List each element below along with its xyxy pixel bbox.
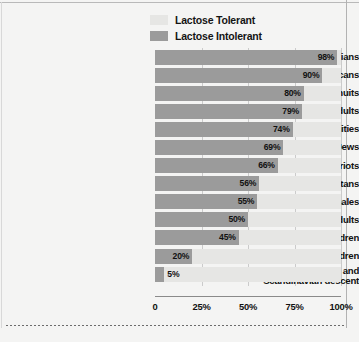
- chart-legend: Lactose Tolerant Lactose Intolerant: [150, 13, 262, 45]
- bar-fill-intolerant: 80%: [155, 86, 304, 101]
- bar-track-tolerant: 55%: [155, 194, 341, 209]
- chart-bar-row: Indian children20%: [0, 247, 359, 265]
- bar-value-label: 56%: [240, 176, 257, 191]
- bar-value-label: 20%: [173, 249, 190, 264]
- bar-fill-intolerant: 69%: [155, 140, 283, 155]
- bar-track-tolerant: 45%: [155, 230, 341, 245]
- chart-bar-row: Caucasians of north-European and Scandin…: [0, 265, 359, 283]
- bar-fill-intolerant: 79%: [155, 104, 302, 119]
- chart-bar-row: Cretans56%: [0, 175, 359, 193]
- chart-figure: Lactose Tolerant Lactose Intolerant Sout…: [0, 0, 359, 342]
- bar-track-tolerant: 74%: [155, 122, 341, 137]
- bar-track-tolerant: 69%: [155, 140, 341, 155]
- bar-value-label: 90%: [303, 68, 320, 83]
- x-axis-tick-label: 0: [152, 301, 157, 312]
- bar-fill-intolerant: 74%: [155, 122, 293, 137]
- chart-bar-row: African American children45%: [0, 229, 359, 247]
- figure-border-top: [0, 2, 359, 3]
- chart-bar-row: Asian Americans90%: [0, 66, 359, 84]
- bar-track-tolerant: 20%: [155, 249, 341, 264]
- bar-value-label: 98%: [318, 50, 335, 65]
- chart-bar-rows: Southeast Asians98%Asian Americans90%Ala…: [0, 48, 359, 283]
- bar-track-tolerant: 90%: [155, 68, 341, 83]
- bar-fill-intolerant: 20%: [155, 249, 192, 264]
- chart-bar-row: Southeast Asians98%: [0, 48, 359, 66]
- bar-track-tolerant: 98%: [155, 50, 341, 65]
- legend-swatch-intolerant: [150, 31, 168, 41]
- bar-fill-intolerant: 50%: [155, 212, 248, 227]
- bar-fill-intolerant: 5%: [155, 267, 164, 282]
- legend-item-intolerant: Lactose Intolerant: [150, 29, 262, 43]
- bar-fill-intolerant: 98%: [155, 50, 337, 65]
- bar-track-tolerant: 80%: [155, 86, 341, 101]
- x-axis-tick-label: 100%: [329, 301, 352, 312]
- bar-fill-intolerant: 90%: [155, 68, 322, 83]
- bar-track-tolerant: 5%: [155, 267, 341, 282]
- bar-value-label: 66%: [258, 158, 275, 173]
- chart-bar-row: Mexican American males55%: [0, 193, 359, 211]
- chart-bar-row: African American adults79%: [0, 102, 359, 120]
- bar-track-tolerant: 50%: [155, 212, 341, 227]
- x-axis-tick-label: 25%: [192, 301, 210, 312]
- bar-fill-intolerant: 56%: [155, 176, 259, 191]
- bar-value-label: 79%: [282, 104, 299, 119]
- chart-bar-row: Mexicans from rural communities74%: [0, 120, 359, 138]
- x-axis-tick-label: 75%: [285, 301, 303, 312]
- x-axis-line: [155, 296, 341, 297]
- chart-bar-row: Indian adults50%: [0, 211, 359, 229]
- dotted-divider: [6, 325, 344, 326]
- bar-track-tolerant: 79%: [155, 104, 341, 119]
- bar-track-tolerant: 56%: [155, 176, 341, 191]
- bar-value-label: 45%: [219, 230, 236, 245]
- chart-bar-row: North American Jews69%: [0, 138, 359, 156]
- chart-x-axis: 025%50%75%100%: [155, 296, 341, 322]
- chart-bar-row: Greek Cypriots66%: [0, 157, 359, 175]
- legend-swatch-tolerant: [150, 15, 168, 25]
- bar-fill-intolerant: 66%: [155, 158, 278, 173]
- legend-label-intolerant: Lactose Intolerant: [175, 30, 262, 42]
- bar-value-label: 69%: [264, 140, 281, 155]
- legend-item-tolerant: Lactose Tolerant: [150, 13, 262, 27]
- bar-value-label: 5%: [167, 267, 179, 282]
- chart-bar-row: Alaskan Inuits80%: [0, 84, 359, 102]
- bar-value-label: 55%: [238, 194, 255, 209]
- legend-label-tolerant: Lactose Tolerant: [175, 14, 255, 26]
- bar-fill-intolerant: 55%: [155, 194, 257, 209]
- chart-plot-area: Southeast Asians98%Asian Americans90%Ala…: [0, 48, 359, 296]
- x-axis-tick-label: 50%: [239, 301, 257, 312]
- bar-value-label: 50%: [228, 212, 245, 227]
- bar-fill-intolerant: 45%: [155, 230, 239, 245]
- bar-value-label: 74%: [273, 122, 290, 137]
- bar-value-label: 80%: [284, 86, 301, 101]
- bar-track-tolerant: 66%: [155, 158, 341, 173]
